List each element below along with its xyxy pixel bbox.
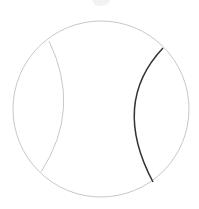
sphere-outline: [13, 21, 189, 197]
right-arc: [134, 48, 163, 182]
diagram-canvas: [0, 0, 199, 209]
left-arc: [41, 41, 64, 172]
top-marker: [92, 0, 110, 6]
